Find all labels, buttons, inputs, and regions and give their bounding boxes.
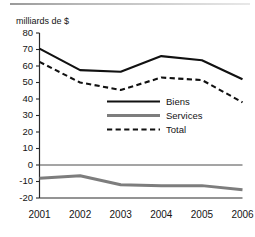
y-tick-label: 80 [11,28,33,38]
y-tick-label: 40 [11,94,33,104]
series-line-biens [40,49,243,80]
y-tick-label: 0 [11,160,33,170]
y-tick-label: 20 [11,127,33,137]
y-tick-label: 60 [11,61,33,71]
chart-figure: milliards de $ 80706050403020100-10-20 2… [0,0,254,237]
series-line-total [40,62,243,102]
y-tick-label: -10 [11,176,33,186]
y-tick-label: 10 [11,143,33,153]
x-tick-label: 2004 [144,209,178,220]
line-chart-plot [0,0,254,237]
y-tick-label: 50 [11,77,33,87]
legend-label-biens: Biens [166,96,190,107]
y-tick-label: 30 [11,110,33,120]
y-tick-label: 70 [11,44,33,54]
x-tick-label: 2001 [23,209,57,220]
x-tick-label: 2002 [63,209,97,220]
x-tick-label: 2005 [185,209,219,220]
legend-label-services: Services [166,110,202,121]
x-tick-label: 2003 [104,209,138,220]
x-tick-label: 2006 [226,209,255,220]
legend-label-total: Total [166,124,186,135]
series-line-services [40,176,243,190]
y-tick-label: -20 [11,193,33,203]
